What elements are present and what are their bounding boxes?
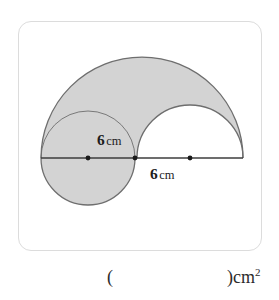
dimension-unit-left: cm (106, 134, 121, 148)
dimension-label-left: 6cm (97, 132, 122, 148)
dimension-value-left: 6 (97, 131, 105, 148)
center-left-circle-dot (86, 156, 91, 161)
answer-close-paren-and-unit: )cm (227, 267, 255, 287)
answer-line: ( )cm2 (0, 262, 279, 292)
answer-unit-exponent: 2 (255, 266, 261, 278)
shaded-region (18, 21, 262, 251)
figure-stage: 6cm 6cm ( )cm2 (0, 0, 279, 300)
answer-close-unit: )cm2 (227, 268, 260, 286)
midpoint-baseline-dot (133, 156, 138, 161)
answer-open-paren: ( (107, 268, 113, 286)
geometry-figure (18, 21, 262, 251)
answer-input[interactable] (116, 266, 228, 290)
dimension-unit-right: cm (159, 168, 174, 182)
center-right-semicircle-dot (188, 156, 193, 161)
dimension-label-right: 6cm (150, 166, 175, 182)
dimension-value-right: 6 (150, 165, 158, 182)
